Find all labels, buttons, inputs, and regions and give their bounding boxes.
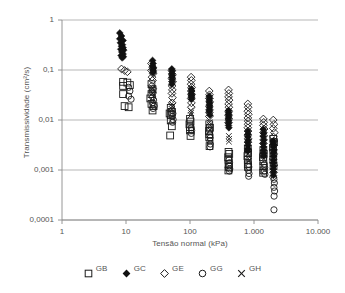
marker-open-circle [271,207,277,213]
grid-lines [62,20,318,220]
legend-open-square-icon [84,264,93,273]
legend-open-diamond-icon [160,264,169,273]
series-gc [116,30,277,179]
legend-open-circle-icon [198,264,207,273]
marker-cross [226,133,232,139]
scatter-plot-canvas [0,0,345,293]
x-axis-title: Tensão normal (kPa) [62,239,318,248]
x-tick-label: 1 [37,227,87,236]
legend-item-ge[interactable]: GE [160,264,184,273]
x-tick-label: 10.000 [293,227,343,236]
legend-item-label: GE [172,264,184,273]
chart-container: 0,00010,0010,010,11 1101001.00010.000 Tr… [0,0,345,293]
y-tick-label: 0,0001 [4,215,54,224]
x-tick-label: 10 [101,227,151,236]
x-tick-label: 1.000 [229,227,279,236]
legend-item-label: GC [134,264,146,273]
legend-item-label: GB [96,264,108,273]
chart-legend: GBGCGEGGGH [0,264,345,273]
marker-open-square [126,82,133,89]
marker-open-square [167,132,174,139]
data-points-layer [116,30,278,213]
legend-item-label: GH [249,264,261,273]
y-tick-label: 1 [4,15,54,24]
legend-item-label: GG [210,264,223,273]
legend-item-gb[interactable]: GB [84,264,108,273]
x-tick-label: 100 [165,227,215,236]
legend-item-gh[interactable]: GH [237,264,261,273]
legend-item-gg[interactable]: GG [198,264,223,273]
legend-item-gc[interactable]: GC [122,264,146,273]
legend-cross-icon [237,264,246,273]
series-gb [120,78,278,176]
legend-filled-diamond-icon [122,264,131,273]
y-axis-title: Transmissividade (cm²/s) [22,43,31,183]
